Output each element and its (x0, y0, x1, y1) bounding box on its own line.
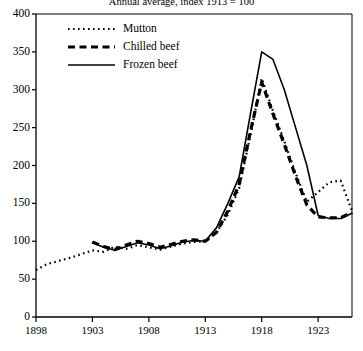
legend-swatches (68, 29, 115, 65)
legend-label-frozen-beef: Frozen beef (123, 58, 178, 70)
x-tick-label: 1903 (72, 325, 112, 336)
x-tick-label: 1913 (185, 325, 225, 336)
y-tick-label: 300 (0, 84, 30, 95)
y-tick-label: 50 (0, 273, 30, 284)
y-tick-label: 350 (0, 46, 30, 57)
y-tick-label: 150 (0, 197, 30, 208)
y-tick-label: 400 (0, 8, 30, 19)
x-tick-label: 1918 (242, 325, 282, 336)
data-series-group (36, 52, 352, 270)
series-line-chilled-beef (92, 82, 352, 249)
legend-label-mutton: Mutton (123, 22, 157, 34)
x-tick-label: 1908 (129, 325, 169, 336)
y-tick-label: 0 (0, 311, 30, 322)
x-tick-marks (36, 317, 318, 322)
x-tick-label: 1923 (298, 325, 338, 336)
y-tick-label: 250 (0, 122, 30, 133)
x-tick-label: 1898 (16, 325, 56, 336)
y-tick-label: 200 (0, 160, 30, 171)
axes (32, 14, 352, 322)
legend-label-chilled-beef: Chilled beef (123, 40, 180, 52)
plot-area (0, 0, 363, 351)
y-tick-label: 100 (0, 235, 30, 246)
chart-container: Annual average, index 1913 = 100 0501001… (0, 0, 363, 351)
